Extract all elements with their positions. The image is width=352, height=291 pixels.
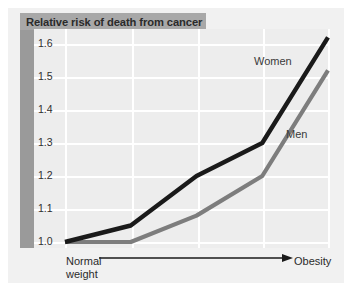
x-axis-label-normal-weight: Normal weight: [66, 255, 101, 281]
series-line-men: [65, 70, 328, 242]
x-axis-label-obesity: Obesity: [294, 255, 331, 267]
x-axis-label-line1: Normal: [66, 255, 101, 268]
series-label-men: Men: [286, 128, 307, 140]
chart-title: Relative risk of death from cancer: [26, 14, 212, 30]
x-axis-label-line2: weight: [66, 268, 101, 281]
chart-figure: Relative risk of death from cancer 1.6 1…: [0, 0, 352, 291]
left-accent-band: [20, 13, 35, 248]
series-label-women: Women: [254, 55, 292, 67]
